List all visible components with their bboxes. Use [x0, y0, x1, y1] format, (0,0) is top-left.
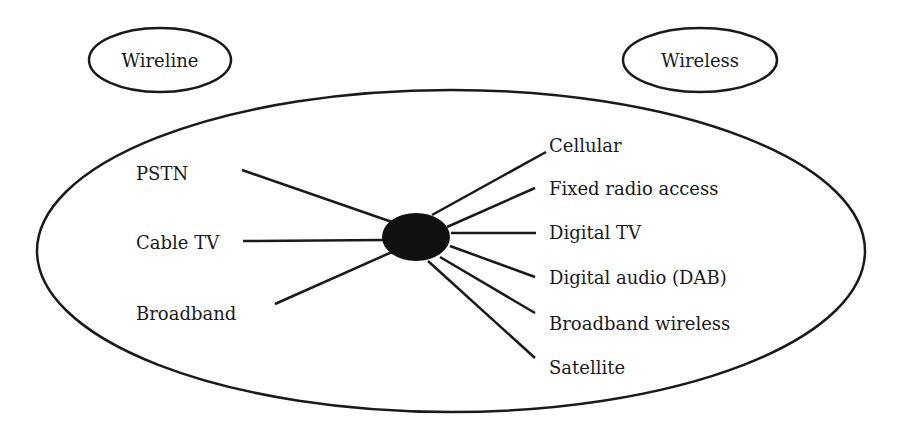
label-cable-tv: Cable TV — [136, 232, 220, 253]
hub-node — [382, 213, 450, 261]
wireline-spokes — [242, 170, 392, 304]
spoke-cellular — [432, 152, 546, 215]
label-satellite: Satellite — [549, 357, 625, 378]
wireless-category: Wireless — [623, 28, 777, 92]
network-convergence-diagram: Wireline Wireless PSTN Cable TV Broadban… — [0, 0, 899, 430]
label-fixed-radio-access: Fixed radio access — [549, 178, 719, 199]
spoke-cable-tv — [243, 240, 385, 241]
spoke-pstn — [242, 170, 392, 222]
label-digital-tv: Digital TV — [549, 222, 642, 243]
spoke-fixed-radio-access — [447, 188, 535, 227]
wireline-label: Wireline — [122, 50, 199, 71]
wireless-label: Wireless — [661, 50, 739, 71]
label-broadband: Broadband — [136, 303, 236, 324]
spoke-digital-audio — [450, 246, 535, 277]
label-pstn: PSTN — [136, 163, 188, 184]
spoke-satellite — [428, 261, 535, 358]
spoke-broadband — [275, 252, 392, 304]
label-digital-audio: Digital audio (DAB) — [549, 267, 727, 288]
wireline-category: Wireline — [89, 28, 231, 92]
label-broadband-wireless: Broadband wireless — [549, 313, 730, 334]
label-cellular: Cellular — [549, 135, 622, 156]
wireless-spokes — [428, 152, 546, 358]
